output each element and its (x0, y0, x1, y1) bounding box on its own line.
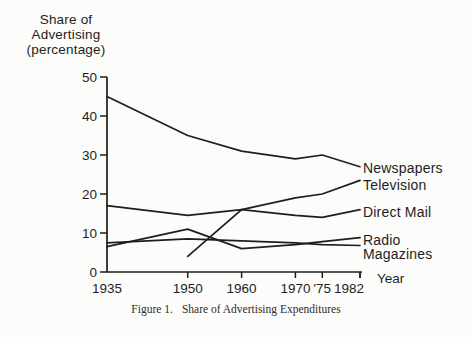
series-label-direct-mail: Direct Mail (363, 204, 431, 220)
series-line-radio (107, 229, 360, 249)
series-label-newspapers: Newspapers (363, 160, 443, 176)
y-tick-label: 0 (89, 265, 97, 280)
figure-caption: Figure 1. Share of Advertising Expenditu… (0, 303, 472, 315)
y-tick-label: 30 (82, 148, 97, 163)
y-tick-label: 40 (82, 109, 97, 124)
x-tick-label: 1982 (334, 281, 364, 296)
series-line-newspapers (107, 97, 360, 167)
y-tick-label: 10 (82, 226, 97, 241)
x-tick-label: '75 (314, 281, 332, 296)
y-tick-label: 50 (82, 70, 97, 85)
y-tick-label: 20 (82, 187, 97, 202)
series-labels-group: NewspapersTelevisionDirect MailRadioMaga… (363, 160, 443, 262)
series-label-magazines: Magazines (363, 246, 433, 262)
x-tick-label: 1950 (173, 281, 203, 296)
x-axis-title: Year (377, 271, 405, 286)
axes-group: 010203040501935195019601970'751982 (82, 70, 364, 296)
figure-caption-title: Share of Advertising Expenditures (182, 303, 341, 315)
axis-lines (107, 77, 362, 272)
x-tick-label: 1960 (227, 281, 257, 296)
chart-svg: 010203040501935195019601970'751982 Newsp… (0, 0, 472, 337)
x-tick-label: 1970 (280, 281, 310, 296)
figure-scan: Share of Advertising (percentage) 010203… (0, 0, 472, 337)
series-lines-group (107, 97, 360, 257)
series-label-television: Television (363, 177, 426, 193)
x-tick-label: 1935 (92, 281, 122, 296)
figure-caption-label: Figure 1. (131, 303, 173, 315)
